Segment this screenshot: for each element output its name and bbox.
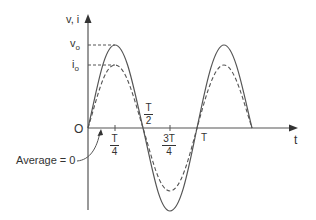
- i0-label-sub: o: [74, 64, 78, 73]
- v0-label: vo: [70, 38, 80, 52]
- i0-label: io: [72, 59, 79, 73]
- origin-label: O: [74, 123, 83, 135]
- tick-label-t-over-2: T 2: [144, 103, 153, 126]
- v0-label-sub: o: [76, 43, 80, 52]
- tick-label-t-over-4: T 4: [110, 134, 119, 157]
- x-axis-arrow-icon: [289, 125, 298, 132]
- average-annotation: Average = 0: [16, 155, 75, 166]
- average-arrow-head-icon: [98, 129, 104, 136]
- waveform-diagram: [0, 0, 316, 220]
- y-axis-label: v, i: [66, 14, 79, 25]
- y-axis-arrow-icon: [85, 14, 92, 23]
- tick-label-t: T: [201, 133, 207, 143]
- x-axis-label: t: [294, 134, 297, 146]
- tick-label-3t-over-4: 3T 4: [162, 134, 176, 157]
